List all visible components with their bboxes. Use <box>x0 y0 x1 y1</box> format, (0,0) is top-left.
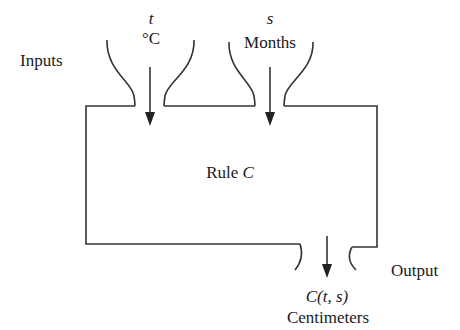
spout-right <box>349 247 356 270</box>
rule-label-prefix: Rule <box>206 163 242 182</box>
input-t-unit: °C <box>142 30 160 47</box>
inputs-label: Inputs <box>20 52 63 69</box>
arrow-s-head <box>265 112 275 126</box>
input-s-variable: s <box>267 10 274 27</box>
funnel-t-left <box>107 40 135 106</box>
arrow-out-head <box>322 264 332 278</box>
output-unit: Centimeters <box>287 309 369 326</box>
spout-left <box>295 244 302 270</box>
arrow-t-head <box>145 112 155 126</box>
machine-box-right <box>284 106 377 247</box>
input-s-unit: Months <box>244 34 296 51</box>
output-label: Output <box>391 262 438 279</box>
function-machine-diagram: Inputs t °C s Months Rule C Output C(t, … <box>0 0 460 330</box>
machine-box <box>86 106 300 244</box>
rule-label: Rule C <box>206 164 254 181</box>
output-expression: C(t, s) <box>306 288 349 305</box>
funnel-t-right <box>164 40 194 106</box>
input-t-variable: t <box>149 10 154 27</box>
rule-label-name: C <box>243 163 254 182</box>
